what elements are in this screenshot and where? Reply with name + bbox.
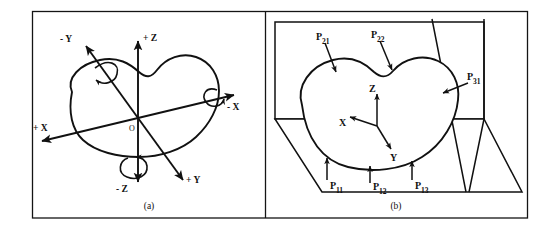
panel-a-origin-label: O bbox=[129, 124, 135, 133]
callout-p21-subscript: 21 bbox=[322, 37, 330, 46]
panel-a-label-minus-z: - Z bbox=[116, 184, 128, 194]
rotation-arrow-minus-z bbox=[120, 157, 147, 178]
callout-p22-subscript: 22 bbox=[377, 35, 385, 44]
panel-b-caption: (b) bbox=[390, 201, 401, 212]
panel-a-label-minus-y: - Y bbox=[60, 34, 72, 44]
panel-a-caption: (a) bbox=[144, 201, 155, 212]
figure-container: O + Z - Z + X - X + Y - Y (a) bbox=[0, 0, 545, 230]
callout-p12-subscript: 12 bbox=[379, 187, 387, 196]
panel-a: O + Z - Z + X - X + Y - Y (a) bbox=[33, 33, 240, 212]
callout-p31-subscript: 31 bbox=[473, 77, 481, 86]
panel-b-label-z: Z bbox=[369, 83, 376, 94]
panel-b-label-x: X bbox=[339, 117, 347, 128]
callout-p11-subscript: 11 bbox=[336, 186, 343, 195]
panel-a-label-plus-z: + Z bbox=[143, 33, 157, 43]
panel-a-label-plus-x: + X bbox=[33, 123, 48, 133]
panel-a-label-plus-y: + Y bbox=[186, 175, 200, 185]
panel-a-label-minus-x: - X bbox=[227, 102, 240, 112]
panel-b-label-y: Y bbox=[390, 152, 398, 163]
technical-figure: O + Z - Z + X - X + Y - Y (a) bbox=[0, 0, 545, 230]
callout-p13-subscript: 13 bbox=[421, 186, 429, 195]
panel-b: Z X Y P 21 P 22 P 31 bbox=[275, 19, 522, 212]
panel-a-body-outline bbox=[70, 55, 219, 157]
